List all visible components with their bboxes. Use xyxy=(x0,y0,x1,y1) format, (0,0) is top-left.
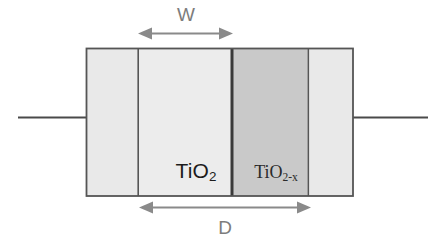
width-dimension-arrow xyxy=(138,28,233,40)
right-electrode xyxy=(309,49,354,197)
tio2-layer-label: TiO2 xyxy=(160,160,232,181)
tio2-formula-subscript: 2 xyxy=(209,169,216,184)
memristor-diagram: W D TiO2 TiO2-x xyxy=(0,0,440,248)
left-electrode xyxy=(87,49,139,197)
tio2x-formula-base: TiO xyxy=(254,162,282,182)
tio2x-formula-subscript: 2-x xyxy=(283,171,298,183)
total-dimension-label: D xyxy=(189,218,261,237)
width-dimension-label: W xyxy=(150,5,222,24)
diagram-canvas xyxy=(0,0,440,248)
tio2-formula-base: TiO xyxy=(175,159,209,182)
tio2x-layer-label: TiO2-x xyxy=(240,163,312,181)
total-dimension-arrow xyxy=(139,202,311,214)
